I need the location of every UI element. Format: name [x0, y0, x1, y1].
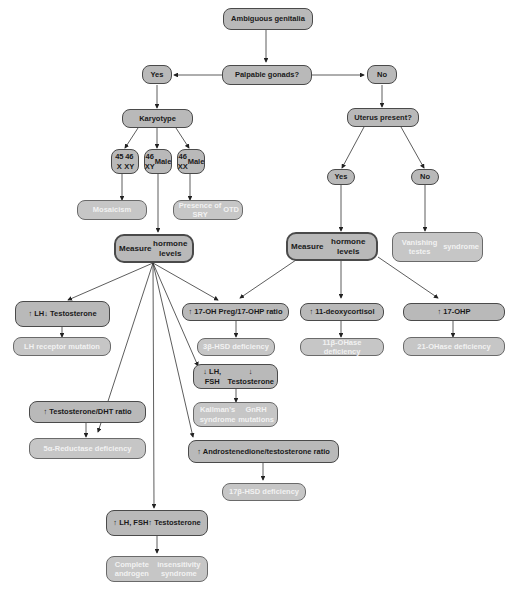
node-no-palpable: No [367, 65, 397, 84]
node-17oh-preg-ratio: ↑ 17-OH Preg/17-OHP ratio [182, 303, 289, 321]
node-text: Karyotype [139, 114, 176, 123]
node-17-ohp: ↑ 17-OHP [403, 303, 505, 321]
node-karyotype-45x: 45 X46 XY [111, 149, 139, 174]
node-high-lh-fsh-high-testosterone: ↑ LH, FSH↑ Testosterone [106, 510, 208, 536]
result-3b-hsd-deficiency: 3β-HSD deficiency [197, 338, 275, 356]
node-palpable-gonads: Palpable gonads? [222, 65, 312, 85]
node-no-uterus: No [411, 169, 439, 185]
node-ambiguous-genitalia: Ambiguous genitalia [223, 8, 313, 30]
result-lh-receptor-mutation: LH receptor mutation [13, 337, 111, 356]
node-text: Palpable gonads? [235, 70, 299, 79]
node-measure-hormones-left: Measurehormone levels [114, 234, 194, 263]
result-21-ohase-deficiency: 21-OHase deficiency [403, 337, 505, 356]
result-complete-androgen-insensitivity: Complete androgeninsensitivity syndrome [106, 556, 208, 582]
result-vanishing-testes: Vanishing testessyndrome [392, 232, 483, 262]
node-testosterone-dht-ratio: ↑ Testosterone/DHT ratio [29, 401, 146, 423]
node-low-lh-fsh-low-testosterone: ↓ LH, FSH↓ Testosterone [193, 364, 278, 389]
node-karyotype-46xx: 46 XXMale [177, 149, 205, 174]
result-sry-otd: Presence of SRYOTD [173, 200, 243, 220]
result-mosaicism: Mosaicism [77, 200, 147, 220]
node-yes-palpable: Yes [142, 65, 172, 84]
node-high-lh-low-testosterone: ↑ LH↓ Testosterone [15, 301, 110, 327]
node-text: Ambiguous genitalia [231, 14, 305, 23]
connector-lines [0, 0, 515, 590]
node-measure-hormones-right: Measurehormone levels [286, 232, 378, 261]
node-11-deoxycortisol: ↑ 11-deoxycortisol [300, 303, 384, 321]
node-androstenedione-ratio: ↑ Androstenedione/testosterone ratio [188, 440, 339, 463]
node-text: No [377, 70, 387, 79]
result-17b-hsd-deficiency: 17β-HSD deficiency [222, 483, 306, 501]
result-kallman-syndrome: Kallman's syndromeGnRH mutations [193, 402, 278, 427]
node-uterus-present: Uterus present? [347, 108, 419, 127]
node-karyotype: Karyotype [122, 109, 193, 128]
node-text: Yes [151, 70, 164, 79]
node-karyotype-46xy: 46 XYMale [144, 149, 172, 174]
result-11b-ohase-deficiency: 11β-OHase deficiency [300, 338, 384, 356]
node-yes-uterus: Yes [327, 169, 355, 185]
result-5a-reductase-deficiency: 5α-Reductase deficiency [29, 438, 146, 459]
